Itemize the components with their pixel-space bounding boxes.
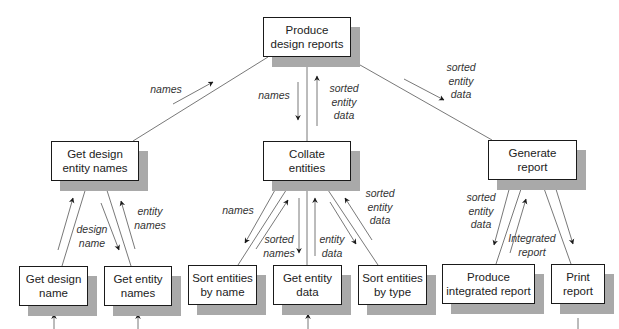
box-label: Get design entity names	[51, 141, 139, 181]
flow-label: sorted entity data	[324, 82, 364, 123]
box-label: Get design name	[19, 266, 88, 306]
flow-label: names	[254, 89, 294, 103]
box-label: Sort entities by name	[188, 265, 257, 305]
box-label: Produce integrated report	[442, 264, 535, 304]
box-label: Generate report	[488, 140, 577, 180]
box-label: Sort entities by type	[358, 265, 427, 305]
flow-label: design name	[72, 223, 112, 250]
flow-arrow-sorted-right	[404, 79, 444, 100]
box-label: Get entity names	[104, 266, 172, 306]
box-label: Print report	[551, 264, 605, 304]
flow-label: names	[218, 204, 258, 218]
flow-label: sorted entity data	[360, 187, 400, 228]
flow-arrow-design-name-up	[58, 198, 73, 250]
box-label: Collate entities	[263, 141, 351, 181]
flow-label: sorted names	[259, 233, 299, 260]
flow-label: entity names	[130, 205, 170, 232]
flow-label: Integrated report	[504, 232, 560, 259]
flow-label: sorted entity data	[461, 191, 501, 232]
connector-root-gden	[133, 57, 268, 141]
box-label: Produce design reports	[263, 17, 351, 57]
structure-chart: Produce design reports Get design entity…	[0, 0, 619, 329]
flow-label: names	[146, 83, 186, 97]
box-label: Get entity data	[273, 265, 342, 305]
flow-label: entity data	[312, 233, 352, 260]
flow-label: sorted entity data	[441, 61, 481, 102]
